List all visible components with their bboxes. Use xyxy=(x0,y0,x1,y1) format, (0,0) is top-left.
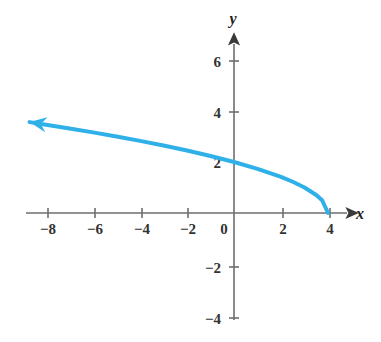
x-axis-label: x xyxy=(355,205,364,222)
y-tick-label-6: 6 xyxy=(214,54,222,70)
x-tick-label--8: −8 xyxy=(40,221,56,237)
y-axis-group: 6 4 2 −2 −4 y xyxy=(205,10,239,327)
function-curve-group xyxy=(30,117,328,213)
graph-figure: −8 −6 −4 −2 0 2 4 x 6 4 xyxy=(0,0,381,342)
x-tick-label--6: −6 xyxy=(87,221,104,237)
function-curve xyxy=(30,122,328,213)
y-axis-label: y xyxy=(227,10,237,28)
y-tick-label--2: −2 xyxy=(205,260,221,276)
coordinate-plane-svg: −8 −6 −4 −2 0 2 4 x 6 4 xyxy=(0,0,381,342)
x-tick-label--2: −2 xyxy=(180,221,196,237)
x-axis-group: −8 −6 −4 −2 0 2 4 x xyxy=(26,205,364,237)
y-tick-label-4: 4 xyxy=(214,105,222,121)
y-axis-tick-labels: 6 4 2 −2 −4 xyxy=(205,54,222,327)
y-tick-label--4: −4 xyxy=(205,311,222,327)
x-tick-label--4: −4 xyxy=(134,221,151,237)
x-tick-label-0: 0 xyxy=(220,221,228,237)
x-tick-label-2: 2 xyxy=(279,221,287,237)
x-axis-tick-labels: −8 −6 −4 −2 0 2 4 xyxy=(40,221,334,237)
x-tick-label-4: 4 xyxy=(326,221,334,237)
